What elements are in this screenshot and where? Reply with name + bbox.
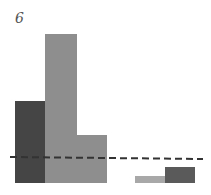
bar-1 <box>15 101 45 183</box>
bar-chart <box>0 0 211 195</box>
bar-5 <box>165 167 195 183</box>
bar-2 <box>45 34 77 183</box>
bar-3 <box>77 135 107 183</box>
bar-4 <box>135 176 165 183</box>
